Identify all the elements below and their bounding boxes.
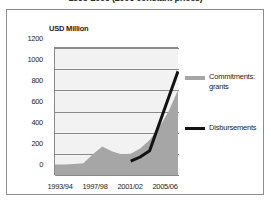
y-axis-tick-600: 600 xyxy=(11,97,43,106)
chart-canvas xyxy=(55,48,179,176)
legend-item-disbursements: Disbursements xyxy=(185,123,256,133)
y-axis-tick-800: 800 xyxy=(11,76,43,85)
legend-label-commitments-grants-line2: grants xyxy=(209,82,229,91)
plot-area xyxy=(54,47,178,175)
legend-swatch-commitments-grants-icon xyxy=(185,76,205,80)
chart-title: 1993-2006 (2006 constant prices) xyxy=(0,0,271,3)
legend-swatch-disbursements-icon xyxy=(185,127,205,130)
y-axis-tick-1200: 1200 xyxy=(11,34,43,43)
y-axis-tick-0: 0 xyxy=(11,160,43,169)
x-axis-tick-2001-02: 2001/02 xyxy=(117,182,142,191)
legend-label-commitments-grants-line1: Commitments: xyxy=(209,72,255,81)
series-commitments-grants-area xyxy=(55,90,178,175)
figure-frame: USD Million 1200 1000 800 600 400 200 0 … xyxy=(6,9,264,195)
x-axis-tick-2005-06: 2005/06 xyxy=(152,182,177,191)
legend-label-commitments-grants: Commitments: grants xyxy=(209,72,255,91)
legend-label-disbursements: Disbursements xyxy=(209,123,256,133)
y-axis-tick-400: 400 xyxy=(11,118,43,127)
y-axis-tick-200: 200 xyxy=(11,139,43,148)
x-axis-tick-1997-98: 1997/98 xyxy=(82,182,107,191)
y-axis-tick-1000: 1000 xyxy=(11,55,43,64)
legend-item-commitments-grants: Commitments: grants xyxy=(185,72,255,91)
y-axis-unit-label: USD Million xyxy=(49,24,88,33)
x-axis-tick-1993-94: 1993/94 xyxy=(47,182,72,191)
